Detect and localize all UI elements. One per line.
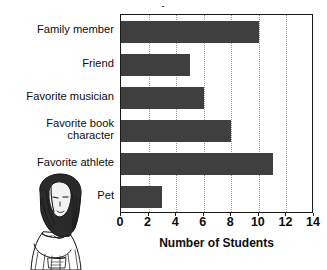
bar-4 [121,153,273,175]
bar-5 [121,186,162,208]
x-tick-label-0: 0 [117,215,124,229]
x-tick-label-4: 4 [172,215,179,229]
category-label-2: Favorite musician [26,90,114,103]
gridline-12 [286,15,288,212]
x-tick-label-10: 10 [251,215,265,229]
girl-line-drawing-illustration [18,172,104,270]
category-label-4: Favorite athlete [37,156,114,169]
x-tick-label-12: 12 [278,215,292,229]
x-tick-label-2: 2 [144,215,151,229]
x-tick-label-6: 6 [199,215,206,229]
x-axis-title: Number of Students [120,236,313,250]
x-tick-label-14: 14 [306,215,320,229]
bar-3 [121,120,231,142]
plot-area [120,14,313,213]
gridline-4 [176,15,178,212]
gridline-6 [204,15,206,212]
gridline-8 [231,15,233,212]
category-label-1: Friend [82,57,114,70]
bar-1 [121,54,190,76]
bar-2 [121,87,204,109]
chart-page: · Family memberFriendFavorite musicianFa… [0,0,327,270]
gridline-10 [259,15,261,212]
category-label-0: Family member [37,23,114,36]
cut-off-title: · [0,0,327,7]
gridline-2 [149,15,151,212]
x-tick-label-8: 8 [227,215,234,229]
category-label-3: Favorite book character [46,117,114,142]
bar-0 [121,21,259,43]
